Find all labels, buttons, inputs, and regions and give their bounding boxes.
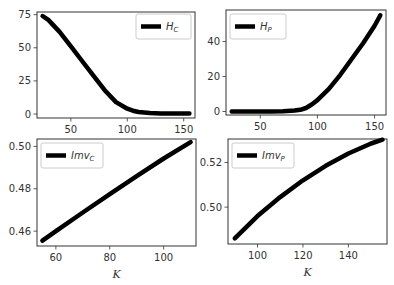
x-axis-label: K [111, 268, 121, 281]
legend: HP [230, 14, 286, 39]
y-tick-label: 0 [25, 109, 31, 120]
y-tick-label: 40 [207, 36, 220, 47]
y-tick-label: 75 [18, 9, 31, 20]
x-tick-label: 140 [339, 250, 358, 261]
x-tick-label: 100 [154, 252, 173, 263]
x-axis-label: K [302, 266, 312, 279]
subplot-h-c: 501001500255075HC [18, 9, 195, 135]
figure: 501001500255075HC 5010015002040HP 608010… [0, 0, 394, 285]
y-tick-label: 50 [18, 42, 31, 53]
legend: HC [136, 14, 191, 39]
subplot-imv-c: 60801000.460.480.50KImvC [9, 139, 196, 281]
x-tick-label: 50 [64, 124, 77, 135]
x-tick-label: 60 [49, 252, 62, 263]
y-tick-label: 0 [214, 106, 220, 117]
x-tick-label: 150 [174, 124, 193, 135]
x-tick-label: 120 [293, 250, 312, 261]
subplot-h-p: 5010015002040HP [207, 10, 386, 132]
y-tick-label: 20 [207, 71, 220, 82]
y-tick-label: 0.48 [9, 183, 31, 194]
y-tick-label: 0.46 [9, 226, 31, 237]
subplot-imv-p: 1001201400.500.52KImvP [200, 139, 387, 279]
legend: ImvC [41, 143, 103, 168]
y-tick-label: 0.52 [200, 157, 222, 168]
x-tick-label: 100 [308, 121, 327, 132]
legend: ImvP [232, 143, 294, 168]
x-tick-label: 100 [118, 124, 137, 135]
x-tick-label: 80 [103, 252, 116, 263]
y-tick-label: 0.50 [200, 202, 222, 213]
y-tick-label: 0.50 [9, 141, 31, 152]
x-tick-label: 150 [365, 121, 384, 132]
x-tick-label: 100 [248, 250, 267, 261]
x-tick-label: 50 [254, 121, 267, 132]
y-tick-label: 25 [18, 75, 31, 86]
